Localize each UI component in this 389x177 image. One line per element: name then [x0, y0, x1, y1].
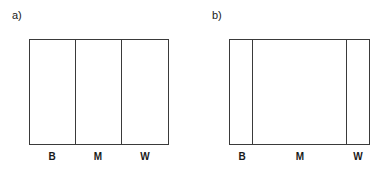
- panel-b-segment-b-label: B: [238, 151, 245, 162]
- panel-a-segment-m-label: M: [94, 151, 102, 162]
- panel-b-segment-m-label: M: [296, 151, 304, 162]
- panel-a-divider-1: [75, 40, 76, 144]
- panel-b-divider-1: [252, 40, 253, 144]
- panel-a-segment-b-label: B: [48, 151, 55, 162]
- panel-a-box: [29, 39, 169, 145]
- panel-b-segment-w-label: W: [353, 151, 362, 162]
- panel-b-box: [229, 39, 370, 145]
- panel-a-label: a): [12, 9, 22, 21]
- panel-b-label: b): [212, 9, 222, 21]
- panel-b-divider-2: [346, 40, 347, 144]
- panel-a-divider-2: [121, 40, 122, 144]
- panel-a-segment-w-label: W: [140, 151, 149, 162]
